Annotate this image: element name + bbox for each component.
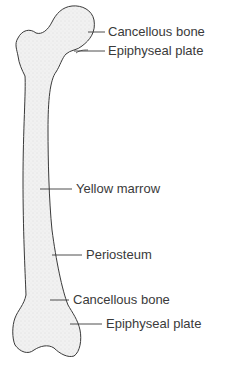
label-cancellous-bone-bottom: Cancellous bone [73, 293, 170, 307]
epiphyseal-plate-top-line [76, 50, 88, 53]
label-yellow-marrow: Yellow marrow [76, 182, 160, 196]
label-epiphyseal-plate-bottom: Epiphyseal plate [106, 317, 201, 331]
label-epiphyseal-plate-top: Epiphyseal plate [108, 44, 203, 58]
label-periosteum: Periosteum [86, 248, 152, 262]
label-cancellous-bone-top: Cancellous bone [108, 25, 205, 39]
